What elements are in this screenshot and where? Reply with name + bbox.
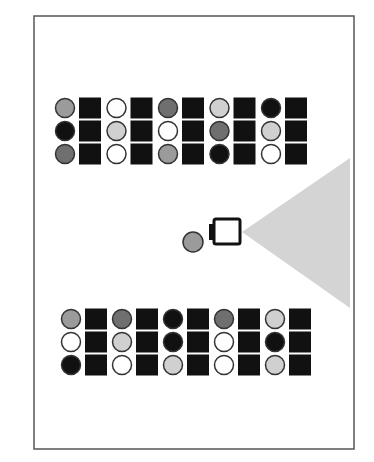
- shelf-item-white: [215, 356, 234, 375]
- camera-fov-cone: [242, 158, 350, 308]
- robot: [209, 219, 240, 244]
- shelf-item-black: [210, 145, 229, 164]
- shelf-item-black: [56, 122, 75, 141]
- shelf-item-black: [164, 310, 183, 329]
- shelf-item-white: [107, 99, 126, 118]
- robot-body: [214, 219, 240, 244]
- shelf-block: [85, 355, 107, 376]
- shelf-item-mid: [159, 145, 178, 164]
- shelf-item-light: [164, 356, 183, 375]
- shelf-block: [182, 144, 204, 165]
- shelf-item-black: [262, 99, 281, 118]
- shelf-item-black: [164, 333, 183, 352]
- shelf-block: [136, 332, 158, 353]
- shelf-item-light: [266, 356, 285, 375]
- shelf-block: [85, 309, 107, 330]
- shelf-block: [285, 98, 307, 119]
- shelf-block: [289, 309, 311, 330]
- shelf-item-light: [107, 122, 126, 141]
- shelf-block: [234, 121, 256, 142]
- shelf-item-white: [107, 145, 126, 164]
- shelf-block: [234, 98, 256, 119]
- shelf-block: [187, 332, 209, 353]
- shelf-block: [289, 332, 311, 353]
- shelf-block: [289, 355, 311, 376]
- shelf-block: [136, 309, 158, 330]
- shelf-item-black: [266, 333, 285, 352]
- bottom-shelf: [62, 309, 312, 376]
- shelf-block: [182, 121, 204, 142]
- shelf-block: [131, 144, 153, 165]
- shelf-block: [234, 144, 256, 165]
- shelf-block: [238, 355, 260, 376]
- shelf-item-white: [113, 356, 132, 375]
- shelf-item-light: [266, 310, 285, 329]
- target-object: [183, 232, 203, 252]
- shelf-item-mid: [56, 99, 75, 118]
- shelf-block: [79, 121, 101, 142]
- shelf-item-light: [210, 99, 229, 118]
- shelf-item-white: [62, 333, 81, 352]
- shelf-block: [238, 309, 260, 330]
- shelf-item-mid: [62, 310, 81, 329]
- shelf-item-white: [159, 122, 178, 141]
- shelf-block: [131, 121, 153, 142]
- shelf-item-white: [262, 145, 281, 164]
- shelf-item-dark: [56, 145, 75, 164]
- shelf-block: [136, 355, 158, 376]
- shelf-item-black: [62, 356, 81, 375]
- top-shelf: [56, 98, 308, 165]
- shelf-block: [187, 355, 209, 376]
- shelf-block: [131, 98, 153, 119]
- shelf-item-white: [215, 333, 234, 352]
- shelf-block: [79, 98, 101, 119]
- shelf-item-dark: [210, 122, 229, 141]
- shelf-block: [85, 332, 107, 353]
- shelf-item-dark: [215, 310, 234, 329]
- robot-scene-diagram: [0, 0, 374, 462]
- shelf-block: [238, 332, 260, 353]
- shelf-block: [79, 144, 101, 165]
- shelf-block: [187, 309, 209, 330]
- shelf-block: [285, 121, 307, 142]
- shelf-item-dark: [159, 99, 178, 118]
- shelf-block: [182, 98, 204, 119]
- shelf-block: [285, 144, 307, 165]
- shelf-item-light: [262, 122, 281, 141]
- shelf-item-dark: [113, 310, 132, 329]
- shelf-item-light: [113, 333, 132, 352]
